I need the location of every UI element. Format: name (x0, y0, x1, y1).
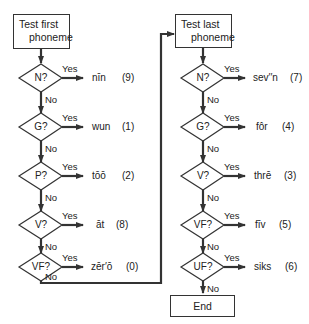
yes-label: Yes (224, 112, 240, 123)
digit-output: (0) (126, 261, 138, 272)
digit-output: (4) (282, 121, 294, 132)
digit-output: (1) (122, 121, 134, 132)
yes-label: Yes (224, 210, 240, 221)
yes-label: Yes (224, 63, 240, 74)
decision-label: G? (19, 121, 63, 132)
end-label: End (171, 300, 234, 313)
decision-label: P? (19, 170, 63, 181)
no-label: No (207, 283, 219, 294)
no-label: No (45, 192, 57, 203)
no-label: No (45, 271, 57, 282)
digit-output: (8) (116, 219, 128, 230)
decision-label: V? (19, 219, 63, 230)
word-output: fīv (255, 219, 266, 230)
decision-label: G? (181, 121, 225, 132)
yes-label: Yes (62, 112, 78, 123)
digit-output: (7) (290, 72, 302, 83)
word-output: wun (92, 121, 110, 132)
word-output: tōō (92, 170, 106, 181)
yes-label: Yes (224, 252, 240, 263)
word-output: fôr (256, 121, 268, 132)
box-line2: phoneme (191, 31, 235, 44)
no-label: No (207, 192, 219, 203)
yes-label: Yes (62, 63, 78, 74)
digit-output: (9) (122, 72, 134, 83)
no-label: No (45, 94, 57, 105)
yes-label: Yes (62, 252, 78, 263)
no-label: No (45, 143, 57, 154)
word-output: sev′′n (253, 72, 278, 83)
yes-label: Yes (62, 161, 78, 172)
digit-output: (3) (284, 170, 296, 181)
decision-label: UF? (181, 261, 225, 272)
decision-label: V? (181, 170, 225, 181)
digit-output: (2) (122, 170, 134, 181)
yes-label: Yes (224, 161, 240, 172)
box-line1: Test last (181, 18, 220, 31)
box-line2: phoneme (29, 31, 73, 44)
decision-label: N? (181, 72, 225, 83)
end-box: End (170, 295, 235, 317)
test-last-phoneme-box: Test last phoneme (175, 14, 232, 48)
no-label: No (45, 241, 57, 252)
word-output: siks (254, 261, 271, 272)
test-first-phoneme-box: Test first phoneme (13, 14, 70, 49)
decision-label: N? (19, 72, 63, 83)
word-output: zēr′ō (91, 261, 112, 272)
word-output: thrē (254, 170, 271, 181)
word-output: nīn (92, 72, 106, 83)
word-output: āt (96, 219, 104, 230)
yes-label: Yes (62, 210, 78, 221)
box-line1: Test first (19, 18, 58, 31)
decision-label: VF? (181, 219, 225, 230)
no-label: No (207, 94, 219, 105)
no-label: No (207, 143, 219, 154)
no-label: No (207, 241, 219, 252)
digit-output: (6) (285, 261, 297, 272)
digit-output: (5) (279, 219, 291, 230)
